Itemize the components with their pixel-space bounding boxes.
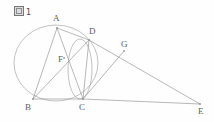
point-label-E: E — [198, 107, 204, 116]
segment-CG — [83, 51, 124, 99]
vertex-point-C — [82, 98, 84, 100]
vertex-point-D — [88, 39, 90, 41]
point-label-F: F — [58, 55, 63, 64]
point-label-A: A — [53, 14, 60, 23]
circles-group — [14, 25, 98, 101]
vertex-point-F — [63, 57, 65, 59]
segment-CD — [83, 40, 89, 99]
segment-AB — [33, 28, 57, 99]
point-label-C: C — [79, 103, 85, 112]
circle-circumcircle-ABCD — [14, 25, 98, 101]
vertex-point-A — [56, 27, 58, 29]
point-label-G: G — [121, 40, 128, 49]
segment-CE — [83, 99, 200, 104]
point-label-D: D — [89, 27, 96, 36]
vertex-point-E — [199, 103, 201, 105]
segment-BD — [33, 40, 89, 99]
vertex-point-B — [32, 98, 34, 100]
figure-container: 1 ABCDEFG — [0, 0, 214, 122]
segments-group — [33, 28, 200, 104]
vertices-group — [32, 27, 201, 105]
segment-AD — [57, 28, 89, 40]
vertex-point-G — [123, 50, 125, 52]
point-label-B: B — [25, 103, 31, 112]
geometry-diagram — [0, 0, 214, 122]
